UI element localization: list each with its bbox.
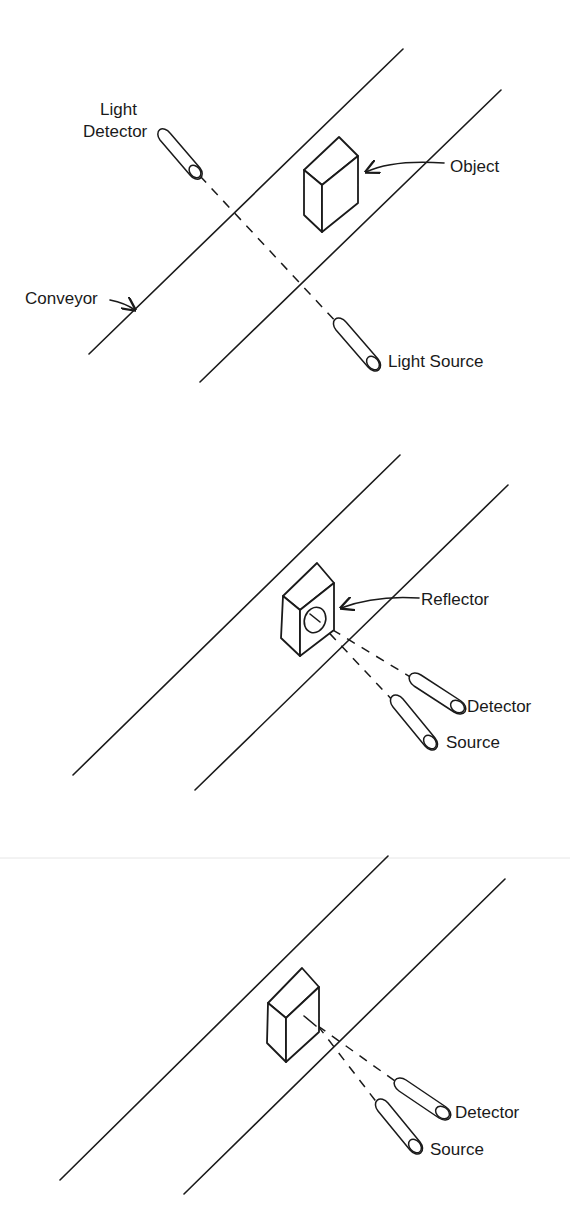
label-light-detector-line2: Detector bbox=[83, 122, 148, 141]
diagram-svg: Light Detector Object Conveyor Light Sou… bbox=[0, 0, 570, 1206]
detector-icon bbox=[409, 673, 467, 715]
return-beam bbox=[318, 1026, 402, 1086]
light-detector-icon bbox=[158, 129, 204, 180]
label-conveyor: Conveyor bbox=[25, 289, 98, 308]
object-arrow-icon bbox=[366, 162, 444, 172]
label-source: Source bbox=[430, 1140, 484, 1159]
emitted-beam bbox=[318, 1026, 381, 1108]
light-source-icon bbox=[333, 318, 382, 372]
conveyor-arrow-icon bbox=[110, 300, 135, 310]
label-object: Object bbox=[450, 157, 499, 176]
label-detector: Detector bbox=[467, 697, 532, 716]
source-icon bbox=[390, 695, 439, 751]
object-box bbox=[304, 137, 358, 232]
label-source: Source bbox=[446, 733, 500, 752]
label-reflector: Reflector bbox=[421, 590, 489, 609]
diagram-canvas: Light Detector Object Conveyor Light Sou… bbox=[0, 0, 570, 1206]
conveyor-edge-upper bbox=[73, 455, 400, 775]
reflector-arrow-icon bbox=[341, 597, 419, 608]
object-box bbox=[267, 968, 319, 1062]
source-icon bbox=[375, 1099, 424, 1155]
panel-diffuse: Detector Source bbox=[60, 856, 520, 1194]
conveyor-edge-upper bbox=[60, 856, 388, 1180]
panel-through-beam: Light Detector Object Conveyor Light Sou… bbox=[25, 49, 501, 382]
label-detector: Detector bbox=[455, 1103, 520, 1122]
detector-icon bbox=[394, 1078, 452, 1121]
label-light-source: Light Source bbox=[388, 352, 483, 371]
panel-retroreflective: Reflector Detector Source bbox=[73, 455, 532, 790]
label-light-detector-line1: Light bbox=[100, 100, 137, 119]
object-box bbox=[281, 563, 334, 656]
